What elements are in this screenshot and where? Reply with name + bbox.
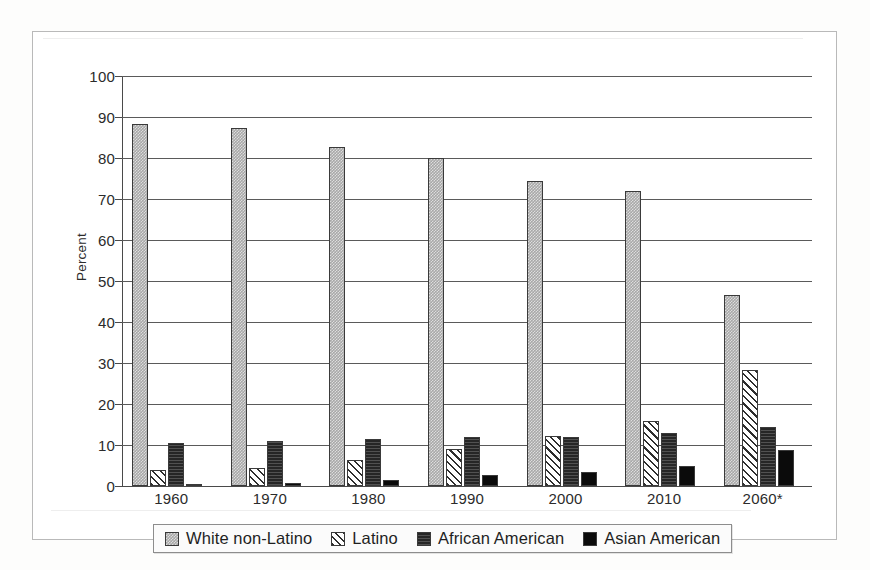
bar — [527, 181, 543, 486]
bar-group — [122, 76, 221, 486]
y-axis-tick-labels: 1009080706050403020100 — [73, 76, 115, 486]
x-tick-label: 1970 — [221, 490, 320, 507]
legend-swatch-icon — [583, 532, 597, 546]
bar — [329, 147, 345, 486]
bar — [150, 470, 166, 486]
bar-group — [418, 76, 517, 486]
y-tick-label: 50 — [98, 273, 115, 290]
y-axis-tick — [115, 199, 122, 200]
legend-label: White non-Latino — [186, 529, 312, 548]
legend-label: Asian American — [604, 529, 720, 548]
bar — [625, 191, 641, 486]
y-axis-tick — [115, 363, 122, 364]
legend-item: White non-Latino — [165, 529, 312, 548]
y-tick-label: 70 — [98, 191, 115, 208]
x-axis-baseline — [122, 486, 812, 487]
y-tick-label: 0 — [106, 478, 115, 495]
bar — [446, 449, 462, 486]
y-tick-label: 20 — [98, 396, 115, 413]
y-axis-tick — [115, 158, 122, 159]
legend-label: African American — [438, 529, 564, 548]
bar — [545, 436, 561, 486]
chart-frame: 1009080706050403020100 Percent 196019701… — [32, 31, 837, 540]
bar-groups: 1960197019801990200020102060* — [122, 76, 812, 486]
y-axis-tick — [115, 240, 122, 241]
y-axis-tick — [115, 76, 122, 77]
x-tick-label: 1990 — [418, 490, 517, 507]
x-tick-label: 2000 — [516, 490, 615, 507]
bar — [267, 441, 283, 486]
bar — [249, 468, 265, 486]
y-axis-tick — [115, 486, 122, 487]
y-tick-label: 10 — [98, 437, 115, 454]
legend-item: Latino — [331, 529, 398, 548]
bar — [168, 443, 184, 486]
bar-group — [713, 76, 812, 486]
scan-artifact — [51, 510, 751, 511]
bar — [643, 421, 659, 486]
bar-group — [319, 76, 418, 486]
chart-legend: White non-LatinoLatinoAfrican AmericanAs… — [153, 524, 732, 553]
scan-artifact — [43, 38, 803, 39]
y-axis-tick — [115, 322, 122, 323]
bar — [347, 460, 363, 486]
bar — [428, 158, 444, 486]
x-tick-label: 2060* — [713, 490, 812, 507]
bar — [482, 475, 498, 486]
y-tick-label: 40 — [98, 314, 115, 331]
bar — [778, 450, 794, 486]
y-axis-title: Percent — [74, 233, 89, 281]
bar — [365, 439, 381, 486]
y-tick-label: 80 — [98, 150, 115, 167]
bar — [760, 427, 776, 486]
bar — [231, 128, 247, 486]
legend-item: African American — [417, 529, 564, 548]
legend-swatch-icon — [165, 532, 179, 546]
bar — [563, 437, 579, 486]
y-tick-label: 90 — [98, 109, 115, 126]
bar-group — [516, 76, 615, 486]
legend-item: Asian American — [583, 529, 720, 548]
bar — [581, 472, 597, 486]
bar — [464, 437, 480, 486]
bar — [742, 370, 758, 486]
bar — [661, 433, 677, 486]
x-tick-label: 1980 — [319, 490, 418, 507]
bar — [285, 483, 301, 486]
y-tick-label: 30 — [98, 355, 115, 372]
bar-group — [615, 76, 714, 486]
bar — [186, 484, 202, 486]
y-axis-tick — [115, 117, 122, 118]
y-tick-label: 100 — [89, 68, 115, 85]
bar — [383, 480, 399, 486]
legend-label: Latino — [352, 529, 398, 548]
x-tick-label: 2010 — [615, 490, 714, 507]
legend-swatch-icon — [331, 532, 345, 546]
y-tick-label: 60 — [98, 232, 115, 249]
y-axis-tick — [115, 404, 122, 405]
bar — [132, 124, 148, 486]
legend-swatch-icon — [417, 532, 431, 546]
y-axis-tick — [115, 281, 122, 282]
bar — [724, 295, 740, 486]
bar — [679, 466, 695, 486]
y-axis-tick — [115, 445, 122, 446]
x-tick-label: 1960 — [122, 490, 221, 507]
bar-group — [221, 76, 320, 486]
